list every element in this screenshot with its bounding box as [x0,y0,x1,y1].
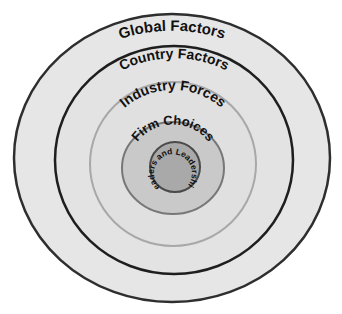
concentric-circles-diagram: Global Factors Country Factors Industry … [0,0,342,314]
